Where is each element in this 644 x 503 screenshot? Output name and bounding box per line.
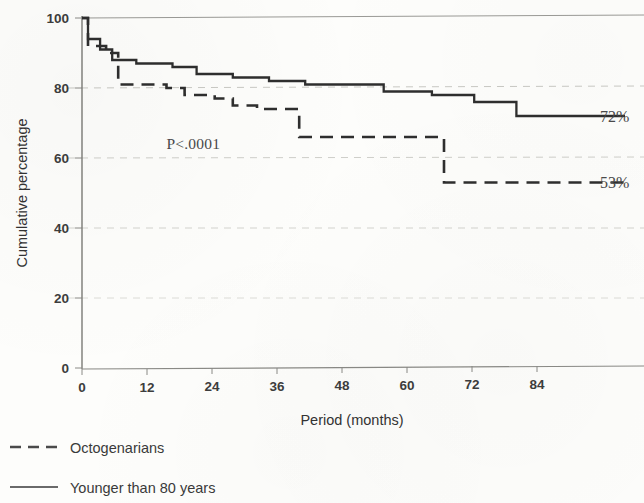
legend-label-octogenarians: Octogenarians — [70, 440, 164, 456]
legend-item-octogenarians: Octogenarians — [10, 440, 164, 456]
x-tick-label-0: 0 — [78, 380, 86, 395]
series-line-younger-than-80 — [82, 18, 625, 116]
x-tick-label-48: 48 — [334, 378, 350, 393]
y-tick-label-100: 100 — [46, 11, 69, 26]
endpoint-label-solid: 72% — [600, 108, 629, 125]
x-tick-label-72: 72 — [464, 377, 479, 392]
x-tick-label-36: 36 — [269, 379, 285, 394]
legend-item-younger-than-80: Younger than 80 years — [10, 480, 215, 496]
gridline-60 — [68, 157, 644, 158]
y-axis-tick-labels: 100 80 60 40 20 0 — [46, 11, 69, 376]
survival-chart-figure: 100 80 60 40 20 0 0 12 24 36 48 60 72 — [0, 0, 644, 503]
y-tick-label-40: 40 — [54, 221, 69, 236]
gridlines — [68, 15, 644, 298]
x-axis-line — [82, 366, 644, 369]
y-tick-label-80: 80 — [54, 81, 69, 96]
chart-canvas: 100 80 60 40 20 0 0 12 24 36 48 60 72 — [0, 0, 644, 503]
gridline-100 — [82, 15, 644, 18]
x-tick-label-24: 24 — [204, 379, 220, 394]
chart-legend: Octogenarians Younger than 80 years — [10, 440, 215, 496]
x-tick-label-12: 12 — [139, 380, 154, 395]
gridline-80 — [68, 86, 644, 88]
x-axis-title: Period (months) — [300, 412, 403, 428]
axes — [82, 16, 644, 369]
y-tick-label-0: 0 — [61, 361, 69, 376]
y-tick-label-60: 60 — [54, 151, 69, 166]
y-axis-title: Cumulative percentage — [14, 118, 30, 267]
x-axis-tick-labels: 0 12 24 36 48 60 72 84 — [78, 377, 545, 395]
y-tick-label-20: 20 — [54, 291, 69, 306]
x-tick-label-60: 60 — [399, 378, 414, 393]
endpoint-label-dashed: 53% — [600, 174, 629, 191]
x-tick-label-84: 84 — [529, 377, 545, 392]
p-value-annotation: P<.0001 — [167, 135, 221, 152]
legend-label-younger-than-80: Younger than 80 years — [70, 480, 215, 496]
y-axis-ticks — [75, 18, 82, 368]
